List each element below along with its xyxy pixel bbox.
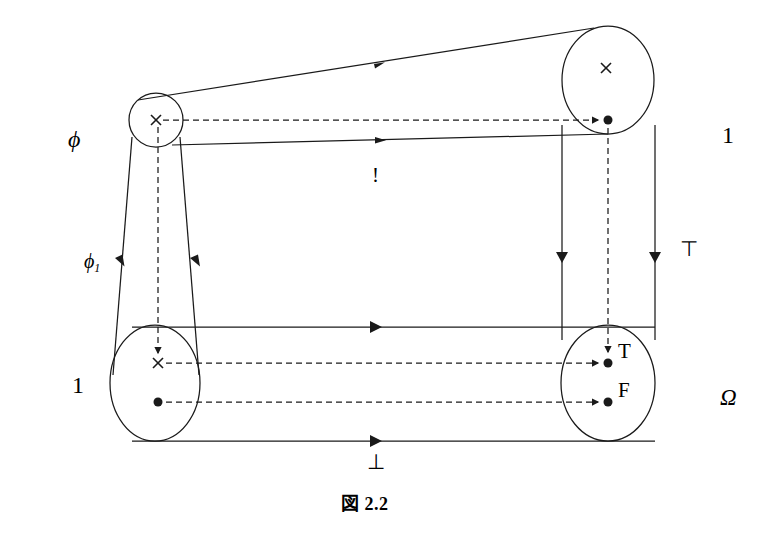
arrowhead-bang [375,137,386,144]
arrow-phi-to-one-top [138,28,594,100]
arrow-bang [172,134,608,145]
label-phi-one-subscript: 1 [94,261,100,275]
label-top-symbol: ⊤ [680,237,698,262]
arrowhead-bottom-lower [370,435,382,447]
label-omega: Ω [720,385,737,411]
point-dot-top-right [604,116,613,125]
arrowhead-top-outer [649,252,661,263]
point-cross-top-left [151,115,161,125]
arrowhead-phi1-right [190,255,200,267]
arrowhead-bottom-upper [370,321,382,333]
point-cross-top-right [601,63,611,73]
label-phi-one: ϕ1 [84,250,100,276]
label-phi: ϕ [68,126,80,153]
label-one-left: 1 [72,372,84,399]
figure-canvas: ϕ ϕ1 1 1 Ω ! ⊤ ⊥ T F 図 2.2 [0,0,772,542]
figure-caption: 図 2.2 [341,489,389,515]
blob-one-bottom-left [110,325,200,441]
label-bottom-symbol: ⊥ [367,450,385,475]
label-phi-one-base: ϕ [84,250,94,272]
label-one-right: 1 [722,122,734,149]
point-cross-bottom-left [153,358,163,368]
label-bang-arrow: ! [372,163,379,188]
label-false-point: F [618,378,630,403]
label-true-point: T [618,339,631,364]
point-dot-bottom-left [154,398,163,407]
arrowhead-phi-to-one-top [374,62,385,68]
point-dot-true [604,359,613,368]
point-dot-false [604,398,613,407]
commutative-diagram-svg [0,0,772,542]
arrowhead-top-inner [556,252,568,263]
